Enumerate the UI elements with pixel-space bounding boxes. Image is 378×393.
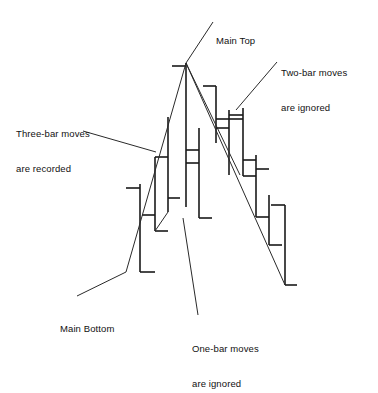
annotation-main-bottom-line-1: Main Bottom xyxy=(60,323,114,335)
price-bar-1 xyxy=(126,184,155,272)
trend-segment-main-up-leg xyxy=(126,63,186,272)
annotation-two-bar-moves: Two-bar moves are ignored xyxy=(281,44,347,136)
annotation-main-top-line-1: Main Top xyxy=(216,35,255,47)
leader-line-three-bar xyxy=(83,131,156,152)
annotation-one-bar-line-1: One-bar moves xyxy=(192,343,259,355)
price-bars-group xyxy=(126,63,297,285)
annotation-one-bar-line-2: are ignored xyxy=(192,378,259,390)
annotation-three-bar-line-1: Three-bar moves xyxy=(16,128,90,140)
price-bar-6 xyxy=(203,86,229,143)
price-bar-5 xyxy=(186,128,212,218)
trend-lines-group xyxy=(126,63,285,285)
annotation-two-bar-line-1: Two-bar moves xyxy=(281,67,347,79)
leader-line-main-top xyxy=(186,22,213,63)
annotation-one-bar-moves: One-bar moves are ignored xyxy=(192,320,259,393)
trend-segment-main-down-leg xyxy=(186,63,285,285)
annotation-three-bar-moves: Three-bar moves are recorded xyxy=(16,105,90,197)
price-bar-3 xyxy=(155,117,180,212)
price-bar-10 xyxy=(256,195,282,245)
leader-line-one-bar xyxy=(183,218,198,315)
price-bar-7 xyxy=(216,110,243,175)
price-bar-9 xyxy=(243,155,269,217)
leader-line-main-bottom xyxy=(77,272,126,296)
annotation-main-bottom: Main Bottom xyxy=(60,300,114,358)
price-bar-2 xyxy=(142,157,168,231)
annotation-three-bar-line-2: are recorded xyxy=(16,163,90,175)
price-bar-4 xyxy=(172,63,199,207)
annotation-two-bar-line-2: are ignored xyxy=(281,102,347,114)
trend-segment-minor-pullback xyxy=(155,212,168,231)
annotation-main-top: Main Top xyxy=(216,12,255,70)
